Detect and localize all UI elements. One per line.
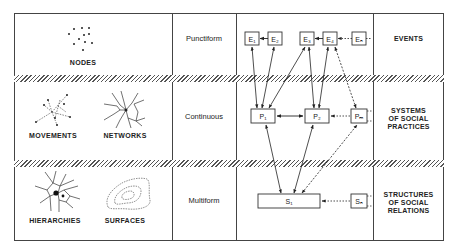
- surfaces-icon: [107, 178, 150, 209]
- svg-text:P₂: P₂: [313, 113, 321, 120]
- event-e4-text: E₄: [326, 36, 334, 43]
- svg-text:S₁: S₁: [285, 198, 293, 205]
- movements-icon: [36, 95, 70, 125]
- svg-text:Pₘ: Pₘ: [355, 113, 364, 120]
- event-e1-text: E₁: [248, 36, 256, 43]
- svg-text:Sₙ: Sₙ: [355, 198, 363, 205]
- nodes-icon: [68, 27, 93, 51]
- event-e2-text: E₂: [271, 36, 279, 43]
- event-e3-text: E₃: [303, 36, 311, 43]
- networks-icon: [104, 91, 145, 128]
- diagram-graphics: E₁ E₂ E₃ E₄ Eₙ P₁ P₂ Pₘ S₁ Sₙ: [0, 0, 458, 251]
- event-en-text: Eₙ: [355, 36, 363, 43]
- svg-text:P₁: P₁: [259, 113, 267, 120]
